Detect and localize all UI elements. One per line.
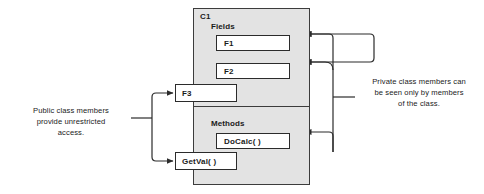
member-box-f2: F2 — [216, 63, 290, 79]
member-box-docalc: DoCalc( ) — [216, 133, 290, 149]
private-caption-line-2: be seen only by members — [358, 87, 480, 98]
private-caption-line-1: Private class members can — [358, 76, 480, 87]
class-diagram: C1 Fields F1 F2 Methods DoCalc( ) F3 Get… — [0, 0, 484, 194]
public-annotation-connector — [131, 93, 173, 161]
member-box-f1: F1 — [216, 35, 290, 51]
private-members-caption: Private class members can be seen only b… — [358, 76, 480, 109]
public-member-box-getval: GetVal( ) — [175, 152, 237, 170]
public-caption-line-1: Public class members — [12, 105, 130, 116]
private-arrow-leaders — [305, 34, 374, 62]
public-members-caption: Public class members provide unrestricte… — [12, 105, 130, 138]
class-name-label: C1 — [200, 12, 210, 21]
section-label-methods: Methods — [211, 119, 245, 128]
private-annotation-connector — [305, 34, 355, 152]
private-caption-line-3: of the class. — [358, 98, 480, 109]
public-caption-line-3: access. — [12, 127, 130, 138]
public-member-box-f3: F3 — [175, 84, 237, 102]
section-divider — [194, 106, 309, 107]
section-label-fields: Fields — [211, 22, 235, 31]
public-caption-line-2: provide unrestricted — [12, 116, 130, 127]
